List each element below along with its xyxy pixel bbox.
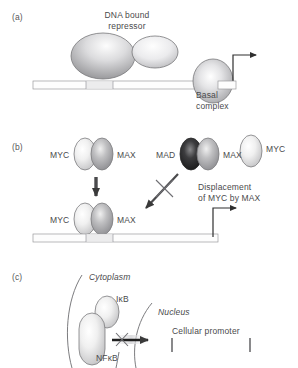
basal-complex-label-line1: Basal <box>196 90 218 101</box>
displacement-annotation-line2: of MYC by MAX <box>198 193 260 204</box>
displacement-arrow-b <box>146 174 178 208</box>
cellular-promoter-label: Cellular promoter <box>172 326 240 337</box>
displacement-annotation-line1: Displacement <box>198 182 251 193</box>
max-oval-top <box>91 138 113 170</box>
max-label-bound: MAX <box>117 215 136 226</box>
transcription-arrow-b <box>213 208 236 237</box>
myc-label-bound: MYC <box>50 215 69 226</box>
nfkb-label: NFκB <box>96 353 118 364</box>
dna-binding-site-a <box>86 81 113 88</box>
repressor-large-lobe <box>71 33 135 79</box>
myc-free-label: MYC <box>266 144 285 155</box>
mad-label: MAD <box>156 150 175 161</box>
myc-oval-bound <box>74 203 96 235</box>
panel-label-c: (c) <box>12 272 22 282</box>
mad-oval <box>180 138 202 170</box>
dna-bar-a <box>33 81 218 89</box>
basal-complex-label-line2: complex <box>196 101 229 112</box>
transcription-arrow-a <box>233 55 256 84</box>
myc-oval-top <box>74 138 96 170</box>
panel-a-graphics <box>33 33 256 103</box>
panel-label-a: (a) <box>12 12 23 22</box>
panel-label-b: (b) <box>12 142 23 152</box>
panel-c-graphics <box>67 275 250 368</box>
block-cross-b <box>156 180 173 197</box>
max-oval-bound <box>91 203 113 235</box>
dna-binding-site-b <box>86 234 113 241</box>
max-label-right: MAX <box>223 150 242 161</box>
ikb-label: IκB <box>116 294 129 305</box>
myc-free-oval <box>240 135 262 167</box>
max-label-top: MAX <box>117 150 136 161</box>
repressor-title-line2: repressor <box>92 21 162 32</box>
nucleus-boundary <box>135 303 152 368</box>
dna-bar-b <box>33 234 218 242</box>
figure-root: (a) DNA bound repressor Basal complex (b… <box>0 0 298 368</box>
nucleus-label: Nucleus <box>158 307 190 318</box>
repressor-small-lobe <box>132 36 178 68</box>
block-cross-c <box>116 333 128 346</box>
cytoplasm-label: Cytoplasm <box>89 272 131 283</box>
figure-graphics <box>0 0 298 368</box>
repressor-title-line1: DNA bound <box>92 10 162 21</box>
max-oval-right <box>197 138 219 170</box>
myc-label-top: MYC <box>50 150 69 161</box>
cytoplasm-boundary <box>67 275 82 368</box>
